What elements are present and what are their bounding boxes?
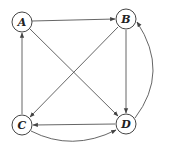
node-b-label: B (120, 13, 130, 26)
edge-d-to-c (33, 124, 115, 125)
edge-d-to-b-curved (135, 22, 153, 118)
node-d-label: D (120, 118, 131, 131)
node-b: B (116, 9, 136, 29)
node-c-label: C (18, 119, 27, 132)
directed-graph-diagram: A B C D (0, 0, 170, 149)
node-a-label: A (17, 16, 27, 29)
node-c: C (12, 115, 32, 135)
edge-a-to-b (32, 19, 115, 21)
edge-c-to-d-curved (31, 130, 116, 141)
graph-canvas: A B C D (0, 0, 170, 149)
node-d: D (116, 114, 136, 134)
node-a: A (12, 12, 32, 32)
